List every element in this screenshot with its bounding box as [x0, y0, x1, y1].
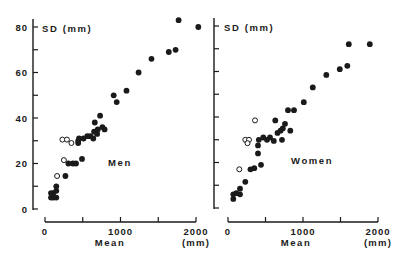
filled-data-point	[337, 66, 343, 72]
filled-data-point	[251, 165, 257, 171]
filled-data-point	[92, 120, 98, 126]
filled-data-point	[255, 143, 261, 149]
men-x-axis-label: Mean	[95, 237, 126, 248]
filled-data-point	[166, 49, 172, 55]
filled-data-point	[136, 70, 142, 76]
open-data-point	[69, 141, 74, 146]
figure: 020406080 010002000 SD (mm) Men Mean (mm…	[0, 0, 403, 259]
women-x-axis-unit: (mm)	[364, 237, 392, 248]
filled-data-point	[114, 99, 120, 105]
open-data-point	[55, 174, 60, 179]
filled-data-point	[323, 72, 329, 78]
open-data-point	[64, 137, 69, 142]
open-data-point	[245, 141, 250, 146]
filled-data-point	[255, 151, 261, 157]
filled-data-point	[271, 138, 277, 144]
filled-data-point	[279, 137, 285, 143]
filled-data-point	[149, 56, 155, 62]
filled-data-point	[111, 92, 117, 98]
filled-data-point	[195, 24, 201, 30]
open-data-point	[253, 118, 258, 123]
filled-data-point	[272, 118, 278, 124]
filled-data-point	[102, 126, 108, 132]
filled-data-point	[90, 136, 96, 142]
filled-data-point	[346, 41, 352, 47]
filled-data-point	[282, 121, 288, 127]
filled-data-point	[124, 88, 130, 94]
filled-data-point	[176, 17, 182, 23]
women-x-axis-label: Mean	[281, 237, 312, 248]
filled-data-point	[242, 179, 248, 185]
men-y-axis-label: SD (mm)	[42, 23, 92, 34]
filled-data-point	[237, 186, 243, 192]
x-tick-label: 1000	[108, 226, 133, 237]
x-tick-label: 0	[42, 226, 48, 237]
filled-data-point	[79, 156, 85, 162]
filled-data-point	[258, 162, 264, 168]
filled-data-point	[53, 183, 59, 189]
filled-data-point	[287, 128, 293, 134]
scatter-figure: 020406080 010002000 SD (mm) Men Mean (mm…	[0, 0, 403, 259]
open-data-point	[237, 167, 242, 172]
filled-data-point	[237, 191, 243, 197]
x-tick-label: 0	[225, 226, 231, 237]
filled-data-point	[73, 161, 79, 167]
filled-data-point	[367, 41, 373, 47]
y-tick-label: 20	[15, 158, 28, 169]
filled-data-point	[310, 85, 316, 91]
filled-data-point	[173, 47, 179, 53]
filled-data-point	[301, 99, 307, 105]
y-tick-label: 80	[15, 22, 28, 33]
x-tick-label: 2000	[365, 226, 390, 237]
y-tick-label: 60	[15, 67, 28, 78]
men-x-axis-unit: (mm)	[182, 237, 210, 248]
filled-data-point	[285, 107, 291, 113]
open-data-point	[61, 158, 66, 163]
women-panel-label: Women	[291, 155, 333, 166]
y-tick-label: 0	[22, 204, 28, 215]
filled-data-point	[97, 113, 103, 119]
filled-data-point	[344, 63, 350, 69]
women-y-axis-label: SD (mm)	[224, 22, 274, 33]
filled-data-point	[291, 107, 297, 113]
x-tick-label: 1000	[290, 226, 315, 237]
filled-data-point	[63, 173, 69, 179]
y-tick-label: 40	[15, 113, 28, 124]
x-tick-label: 2000	[183, 226, 208, 237]
filled-data-point	[53, 195, 59, 201]
men-panel-label: Men	[108, 157, 132, 168]
